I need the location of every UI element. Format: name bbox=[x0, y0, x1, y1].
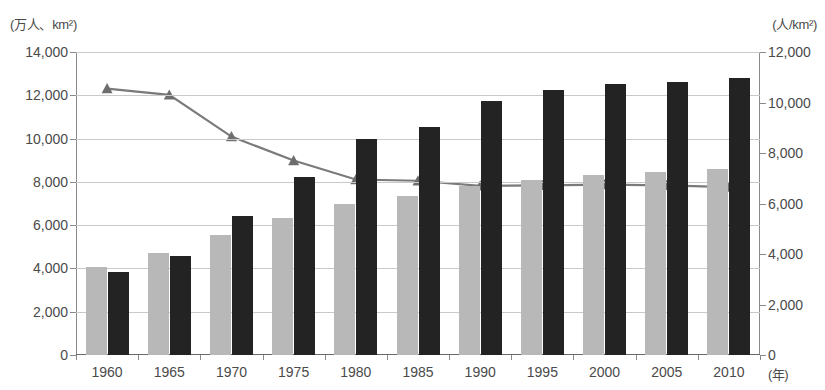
right-axis-tick bbox=[760, 52, 766, 53]
x-axis-tick bbox=[636, 355, 637, 360]
right-axis-tick bbox=[760, 153, 766, 154]
x-axis-tick bbox=[573, 355, 574, 360]
left-axis-tick-label: 2,000 bbox=[33, 304, 68, 320]
bar-area-bar-1985 bbox=[419, 127, 440, 355]
bar-population-bar-2010 bbox=[707, 169, 728, 355]
left-axis-tick-label: 4,000 bbox=[33, 260, 68, 276]
bar-area-bar-1995 bbox=[543, 90, 564, 355]
bar-area-bar-2005 bbox=[667, 82, 688, 355]
left-axis-tick-label: 10,000 bbox=[25, 131, 68, 147]
density-marker-1975 bbox=[288, 155, 299, 165]
x-axis-tick bbox=[387, 355, 388, 360]
bar-area-bar-1975 bbox=[294, 177, 315, 355]
bar-population-bar-1995 bbox=[521, 180, 542, 355]
x-axis-tick-label: 2000 bbox=[589, 364, 620, 380]
x-axis-tick-label: 1980 bbox=[340, 364, 371, 380]
x-axis-tick bbox=[698, 355, 699, 360]
bar-area-bar-1960 bbox=[108, 272, 129, 355]
x-axis-unit-label: (年) bbox=[768, 364, 788, 383]
right-axis-tick-label: 12,000 bbox=[768, 44, 811, 60]
right-axis-tick bbox=[760, 254, 766, 255]
bar-area-bar-1990 bbox=[481, 101, 502, 355]
bar-population-bar-1975 bbox=[272, 218, 293, 355]
right-axis-tick-label: 0 bbox=[768, 347, 776, 363]
left-axis-tick bbox=[70, 52, 76, 53]
left-axis-unit-label: (万人、km²) bbox=[10, 14, 77, 33]
left-axis-tick-label: 8,000 bbox=[33, 174, 68, 190]
x-axis-tick bbox=[76, 355, 77, 360]
left-axis-tick bbox=[70, 268, 76, 269]
x-axis-tick bbox=[200, 355, 201, 360]
bar-population-bar-1990 bbox=[459, 186, 480, 355]
bar-population-bar-1960 bbox=[86, 267, 107, 355]
left-axis-tick-label: 0 bbox=[60, 347, 68, 363]
x-axis-tick bbox=[511, 355, 512, 360]
bar-population-bar-1980 bbox=[334, 204, 355, 356]
bar-area-bar-2000 bbox=[605, 84, 626, 355]
right-axis-tick-label: 10,000 bbox=[768, 95, 811, 111]
x-axis-tick-label: 1970 bbox=[216, 364, 247, 380]
bar-area-bar-2010 bbox=[729, 78, 750, 355]
x-axis-tick-label: 2010 bbox=[713, 364, 744, 380]
right-axis-tick-label: 8,000 bbox=[768, 145, 803, 161]
x-axis-tick-label: 1990 bbox=[465, 364, 496, 380]
bar-area-bar-1980 bbox=[356, 139, 377, 355]
bar-area-bar-1970 bbox=[232, 216, 253, 355]
x-axis-tick-label: 1985 bbox=[402, 364, 433, 380]
left-axis-tick-label: 14,000 bbox=[25, 44, 68, 60]
left-axis-tick-label: 6,000 bbox=[33, 217, 68, 233]
right-axis-tick bbox=[760, 305, 766, 306]
x-axis-tick bbox=[760, 355, 761, 360]
gridline bbox=[76, 52, 760, 53]
right-axis-tick bbox=[760, 103, 766, 104]
bar-population-bar-1970 bbox=[210, 235, 231, 355]
x-axis-tick-label: 2005 bbox=[651, 364, 682, 380]
bar-area-bar-1965 bbox=[170, 256, 191, 355]
bar-population-bar-2000 bbox=[583, 175, 604, 355]
left-axis-tick-label: 12,000 bbox=[25, 87, 68, 103]
right-axis-tick bbox=[760, 204, 766, 205]
left-axis-tick-labels: 02,0004,0006,0008,00010,00012,00014,000 bbox=[6, 52, 68, 355]
x-axis-tick bbox=[325, 355, 326, 360]
x-axis-tick-label: 1975 bbox=[278, 364, 309, 380]
left-axis-tick bbox=[70, 95, 76, 96]
x-axis-tick bbox=[138, 355, 139, 360]
plot-area bbox=[76, 52, 760, 355]
right-axis-tick-label: 6,000 bbox=[768, 196, 803, 212]
x-axis-tick-label: 1965 bbox=[154, 364, 185, 380]
bar-population-bar-1985 bbox=[397, 196, 418, 355]
x-axis-tick-label: 1995 bbox=[527, 364, 558, 380]
left-axis-line bbox=[76, 52, 77, 355]
right-axis-tick-label: 2,000 bbox=[768, 297, 803, 313]
density-marker-1970 bbox=[226, 131, 237, 141]
left-axis-tick bbox=[70, 312, 76, 313]
left-axis-tick bbox=[70, 225, 76, 226]
right-axis-tick-label: 4,000 bbox=[768, 246, 803, 262]
right-axis-tick-labels: 02,0004,0006,0008,00010,00012,000 bbox=[768, 52, 824, 355]
bar-population-bar-1965 bbox=[148, 253, 169, 355]
x-axis-tick bbox=[263, 355, 264, 360]
x-axis-tick-label: 1960 bbox=[92, 364, 123, 380]
density-marker-1960 bbox=[102, 83, 113, 93]
x-axis-tick bbox=[449, 355, 450, 360]
left-axis-tick bbox=[70, 139, 76, 140]
chart-container: (万人、km²) (人/km²) 02,0004,0006,0008,00010… bbox=[0, 0, 825, 390]
right-axis-unit-label: (人/km²) bbox=[772, 14, 817, 33]
gridline bbox=[76, 95, 760, 96]
left-axis-tick bbox=[70, 182, 76, 183]
bar-population-bar-2005 bbox=[645, 172, 666, 355]
